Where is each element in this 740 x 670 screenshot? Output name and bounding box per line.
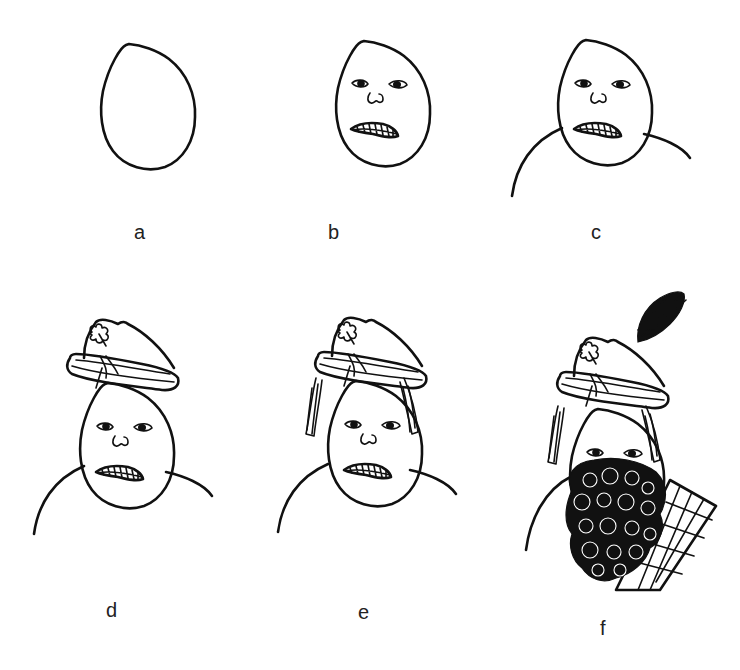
face-with-shoulders-icon (512, 36, 702, 206)
step-label-a: a (134, 222, 145, 242)
step-a-drawing (98, 42, 198, 177)
face-with-cap-and-hair-icon (278, 310, 468, 535)
head-outline-icon (98, 42, 198, 177)
step-label-c: c (591, 222, 601, 242)
step-label-b: b (328, 222, 339, 242)
face-icon (333, 39, 433, 174)
bearded-man-icon (520, 290, 720, 590)
step-b-drawing (333, 39, 433, 174)
step-f-drawing (520, 290, 720, 590)
step-label-e: e (358, 602, 369, 622)
step-label-f: f (600, 618, 606, 638)
face-with-cap-icon (34, 318, 219, 538)
feather-plume-icon (638, 292, 686, 342)
step-e-drawing (278, 310, 468, 535)
step-d-drawing (34, 318, 219, 538)
step-label-d: d (106, 600, 117, 620)
step-c-drawing (512, 36, 702, 206)
